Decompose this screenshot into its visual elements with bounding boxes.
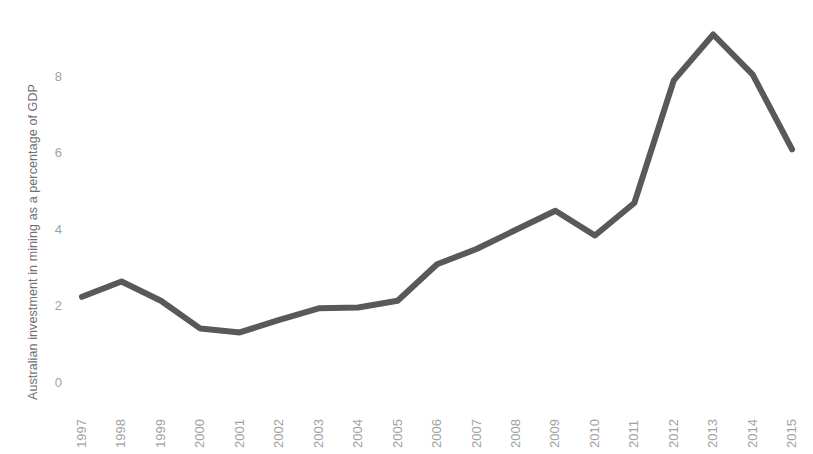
x-tick-label: 2010	[587, 394, 603, 448]
x-tick-label: 2011	[626, 394, 642, 448]
x-tick-label: 2001	[232, 394, 248, 448]
x-tick-label: 2013	[705, 394, 721, 448]
line-chart: Australian investment in mining as a per…	[0, 0, 813, 454]
x-tick-label: 2004	[350, 394, 366, 448]
x-tick-label: 1999	[153, 394, 169, 448]
x-tick-label: 2000	[192, 394, 208, 448]
plot-area	[0, 0, 813, 454]
x-tick-label: 2012	[666, 394, 682, 448]
x-tick-label: 2002	[271, 394, 287, 448]
x-tick-label: 2007	[469, 394, 485, 448]
x-tick-label: 2008	[508, 394, 524, 448]
x-tick-label: 1997	[74, 394, 90, 448]
x-tick-label: 2006	[429, 394, 445, 448]
x-tick-label: 2014	[745, 394, 761, 448]
x-tick-label: 2003	[311, 394, 327, 448]
data-series-line	[82, 35, 792, 333]
x-tick-label: 2015	[784, 394, 800, 448]
x-tick-label: 2005	[390, 394, 406, 448]
x-tick-label: 2009	[547, 394, 563, 448]
x-tick-label: 1998	[113, 394, 129, 448]
